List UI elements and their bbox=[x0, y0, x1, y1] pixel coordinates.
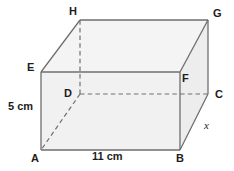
vertex-label-B: B bbox=[176, 153, 184, 164]
vertex-label-D: D bbox=[64, 88, 72, 99]
vertex-label-F: F bbox=[182, 73, 189, 84]
vertex-label-G: G bbox=[213, 8, 222, 19]
measurement-label-depth: x bbox=[204, 120, 209, 131]
face-front bbox=[41, 72, 180, 150]
face-top bbox=[41, 20, 208, 72]
vertex-label-C: C bbox=[215, 89, 223, 100]
measurement-label-height: 5 cm bbox=[8, 101, 33, 112]
cuboid-drawing bbox=[0, 0, 234, 171]
vertex-label-A: A bbox=[31, 153, 39, 164]
vertex-label-H: H bbox=[69, 6, 77, 17]
measurement-label-width: 11 cm bbox=[92, 151, 123, 162]
vertex-label-E: E bbox=[27, 62, 34, 73]
cuboid-diagram: A B C D E F G H 5 cm 11 cm x bbox=[0, 0, 234, 171]
